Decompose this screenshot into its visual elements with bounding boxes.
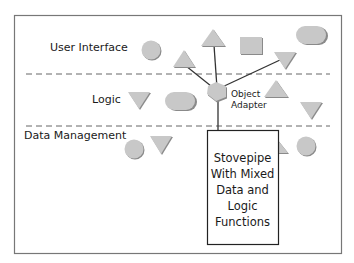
ui-pill (296, 26, 328, 45)
stovepipe-line-5: Functions (210, 214, 275, 230)
stovepipe-label: Stovepipe With Mixed Data and Logic Func… (210, 150, 275, 230)
logic-pill (165, 92, 197, 111)
stovepipe-line-1: Stovepipe (210, 150, 275, 166)
object-adapter-label: Object Adapter (231, 89, 267, 111)
layer-label-data-management: Data Management (24, 129, 126, 142)
layer-label-user-interface: User Interface (50, 41, 128, 54)
stovepipe-line-3: Data and (210, 182, 275, 198)
ui-square (240, 37, 263, 55)
stovepipe-line-4: Logic (210, 198, 275, 214)
stovepipe-line-2: With Mixed (210, 166, 275, 182)
object-adapter-label-line1: Object (231, 89, 267, 100)
object-adapter-label-line2: Adapter (231, 100, 267, 111)
layer-label-logic: Logic (92, 93, 121, 106)
